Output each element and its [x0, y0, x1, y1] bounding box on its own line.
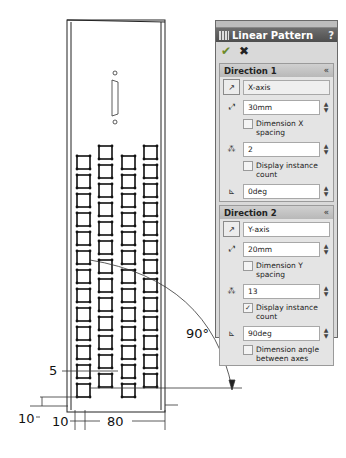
sketch-point — [98, 202, 101, 205]
sketch-point — [98, 354, 101, 357]
sketch-point — [134, 212, 137, 215]
spin-buttons[interactable]: ▲▼ — [322, 285, 330, 297]
direction2-spacing-input[interactable]: 20mm — [243, 242, 320, 257]
sketch-point — [111, 221, 114, 224]
sketch-point — [121, 320, 124, 323]
spin-buttons[interactable]: ▲▼ — [322, 101, 330, 113]
sketch-point — [76, 250, 79, 253]
sketch-point — [156, 367, 159, 370]
direction1-angle-input[interactable]: 0deg — [243, 184, 320, 199]
chevron-up-double-icon[interactable]: « — [324, 208, 329, 217]
sketch-point — [143, 316, 146, 319]
sketch-point — [143, 354, 146, 357]
sketch-point — [98, 278, 101, 281]
direction1-instances-input[interactable]: 2 — [243, 142, 320, 157]
reverse-direction-icon[interactable]: ↗ — [223, 221, 240, 237]
checkbox-label: Dimension angle between axes — [256, 345, 330, 363]
pattern-square — [99, 298, 112, 311]
left-offset-dimension-label[interactable]: 10 — [52, 414, 69, 429]
sketch-point — [143, 310, 146, 313]
pattern-square — [77, 308, 90, 321]
spin-buttons[interactable]: ▲▼ — [322, 327, 330, 339]
direction2-dimension-spacing-checkbox[interactable]: Dimension Y spacing — [220, 259, 333, 281]
sketch-point — [89, 326, 92, 329]
pattern-square — [122, 194, 135, 207]
linear-pattern-icon — [219, 31, 229, 40]
sketch-point — [156, 278, 159, 281]
checkbox-box[interactable] — [243, 345, 253, 355]
pattern-square — [99, 222, 112, 235]
sketch-point — [111, 329, 114, 332]
sketch-point — [76, 326, 79, 329]
direction2-group: Direction 2 « ↗ Y-axis ⤢ 20mm ▲▼ Dimensi… — [219, 205, 334, 366]
chevron-up-double-icon[interactable]: « — [324, 66, 329, 75]
sketch-point — [76, 206, 79, 209]
sketch-point — [134, 244, 137, 247]
sketch-point — [134, 364, 137, 367]
pattern-square — [77, 365, 90, 378]
checkbox-label: Display instance count — [256, 161, 330, 179]
checkbox-box[interactable] — [243, 119, 253, 129]
sketch-point — [156, 183, 159, 186]
sketch-point — [89, 358, 92, 361]
sketch-point — [98, 145, 101, 148]
sketch-point — [134, 282, 137, 285]
direction2-instances-input[interactable]: 13 — [243, 284, 320, 299]
pattern-square — [122, 232, 135, 245]
pattern-square — [99, 146, 112, 159]
checkmark-icon[interactable]: ✔ — [221, 44, 231, 58]
sketch-point — [98, 177, 101, 180]
pattern-square — [144, 260, 157, 273]
spacing-icon: ⤢ — [223, 99, 240, 115]
direction1-display-instance-checkbox[interactable]: Display instance count — [220, 159, 333, 181]
sketch-point — [98, 158, 101, 161]
angle-dimension-label[interactable]: 90° — [186, 326, 209, 341]
sketch-point — [156, 158, 159, 161]
reverse-direction-icon[interactable]: ↗ — [223, 79, 240, 95]
sketch-point — [76, 187, 79, 190]
x-distance-dimension-label[interactable]: 80 — [107, 414, 124, 429]
spin-buttons[interactable]: ▲▼ — [322, 143, 330, 155]
sketch-point — [134, 263, 137, 266]
checkbox-box[interactable]: ✓ — [243, 303, 253, 313]
row-offset-dimension-label[interactable]: 5 — [49, 363, 57, 378]
sketch-point — [98, 272, 101, 275]
sketch-point — [156, 202, 159, 205]
sketch-point — [98, 234, 101, 237]
direction2-display-instance-checkbox[interactable]: ✓ Display instance count — [220, 301, 333, 323]
direction2-dimension-angle-checkbox[interactable]: Dimension angle between axes — [220, 343, 333, 365]
checkbox-box[interactable] — [243, 161, 253, 171]
direction1-dimension-spacing-checkbox[interactable]: Dimension X spacing — [220, 117, 333, 139]
sketch-point — [121, 263, 124, 266]
pattern-square — [122, 308, 135, 321]
direction2-header[interactable]: Direction 2 « — [220, 206, 333, 219]
sketch-point — [98, 348, 101, 351]
sketch-point — [121, 358, 124, 361]
sketch-point — [121, 282, 124, 285]
direction1-axis-field[interactable]: X-axis — [243, 80, 330, 95]
direction2-axis-field[interactable]: Y-axis — [243, 222, 330, 237]
sketch-point — [134, 206, 137, 209]
sketch-point — [156, 373, 159, 376]
sketch-point — [121, 212, 124, 215]
sketch-point — [121, 250, 124, 253]
spin-buttons[interactable]: ▲▼ — [322, 243, 330, 255]
sketch-point — [98, 291, 101, 294]
sketch-point — [134, 288, 137, 291]
checkbox-box[interactable] — [243, 261, 253, 271]
sketch-point — [156, 354, 159, 357]
pattern-square — [122, 327, 135, 340]
sketch-point — [143, 367, 146, 370]
pattern-square — [144, 241, 157, 254]
sketch-point — [76, 364, 79, 367]
help-button[interactable]: ? — [328, 30, 334, 41]
sketch-point — [111, 158, 114, 161]
x-icon[interactable]: ✖ — [239, 44, 249, 58]
direction1-spacing-input[interactable]: 30mm — [243, 100, 320, 115]
bottom-offset-dimension-label[interactable]: 10 — [18, 411, 35, 426]
sketch-point — [76, 231, 79, 234]
spin-buttons[interactable]: ▲▼ — [322, 185, 330, 197]
direction1-header[interactable]: Direction 1 « — [220, 64, 333, 77]
direction2-angle-input[interactable]: 90deg — [243, 326, 320, 341]
sketch-point — [143, 164, 146, 167]
